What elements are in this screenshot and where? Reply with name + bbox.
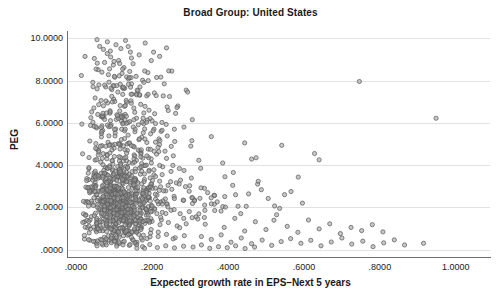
data-point: [127, 199, 131, 203]
data-point: [110, 186, 114, 190]
data-point: [121, 114, 125, 118]
data-point: [101, 111, 105, 115]
data-point: [89, 199, 93, 203]
data-point: [121, 199, 125, 203]
data-point: [116, 174, 120, 178]
data-point: [233, 244, 237, 248]
data-point: [134, 201, 138, 205]
data-point: [120, 219, 124, 223]
data-point: [116, 90, 120, 94]
data-point: [152, 127, 156, 131]
data-point: [91, 178, 95, 182]
data-point: [110, 100, 114, 104]
data-point: [117, 190, 121, 194]
data-point: [82, 233, 86, 237]
data-point: [101, 152, 105, 156]
data-point: [111, 173, 115, 177]
data-point: [95, 87, 99, 91]
data-point: [127, 172, 131, 176]
data-point: [147, 191, 151, 195]
data-point: [110, 198, 114, 202]
data-point: [133, 178, 137, 182]
data-point: [129, 235, 133, 239]
data-point: [109, 199, 113, 203]
data-point: [156, 202, 160, 206]
data-point: [155, 193, 159, 197]
data-point: [107, 222, 111, 226]
data-point: [134, 92, 138, 96]
data-point: [117, 235, 121, 239]
data-point: [99, 190, 103, 194]
data-point: [121, 240, 125, 244]
data-point: [107, 67, 111, 71]
data-point: [147, 195, 151, 199]
data-point: [145, 219, 149, 223]
data-point: [161, 94, 165, 98]
data-point: [125, 233, 129, 237]
data-point: [122, 229, 126, 233]
data-point: [104, 237, 108, 241]
data-point: [123, 118, 127, 122]
data-point: [165, 134, 169, 138]
data-point: [102, 235, 106, 239]
data-point: [110, 159, 114, 163]
data-point: [139, 150, 143, 154]
data-point: [215, 200, 219, 204]
data-point: [182, 168, 186, 172]
data-point: [128, 179, 132, 183]
data-point: [140, 191, 144, 195]
data-point: [107, 225, 111, 229]
data-point: [115, 185, 119, 189]
data-point: [151, 129, 155, 133]
data-point: [153, 192, 157, 196]
data-point: [92, 225, 96, 229]
data-point: [161, 199, 165, 203]
data-point: [100, 238, 104, 242]
data-point: [134, 179, 138, 183]
data-point: [131, 62, 135, 66]
data-point: [95, 221, 99, 225]
data-point: [146, 187, 150, 191]
data-point: [202, 215, 206, 219]
data-point: [113, 191, 117, 195]
data-point: [140, 182, 144, 186]
data-point: [177, 182, 181, 186]
data-point: [105, 224, 109, 228]
data-point: [95, 126, 99, 130]
data-point: [120, 186, 124, 190]
data-point: [111, 192, 115, 196]
data-point: [213, 208, 217, 212]
data-point: [128, 232, 132, 236]
data-point: [122, 65, 126, 69]
data-point: [164, 189, 168, 193]
data-point: [102, 213, 106, 217]
data-point: [120, 193, 124, 197]
data-point: [101, 212, 105, 216]
data-point: [112, 185, 116, 189]
data-point: [136, 148, 140, 152]
data-point: [79, 73, 83, 77]
data-point: [141, 188, 145, 192]
data-point: [109, 214, 113, 218]
data-point: [175, 224, 179, 228]
data-point: [106, 199, 110, 203]
data-point: [121, 182, 125, 186]
data-point: [116, 197, 120, 201]
data-point: [170, 187, 174, 191]
data-point: [138, 85, 142, 89]
data-point: [105, 52, 109, 56]
data-point: [112, 220, 116, 224]
data-point: [127, 232, 131, 236]
data-point: [107, 190, 111, 194]
data-point: [110, 159, 114, 163]
data-point: [300, 201, 304, 205]
data-point: [155, 199, 159, 203]
data-point: [148, 199, 152, 203]
data-point: [124, 211, 128, 215]
data-point: [135, 240, 139, 244]
data-point: [127, 198, 131, 202]
data-point: [142, 111, 146, 115]
data-point: [122, 208, 126, 212]
data-point: [126, 223, 130, 227]
data-point: [144, 189, 148, 193]
